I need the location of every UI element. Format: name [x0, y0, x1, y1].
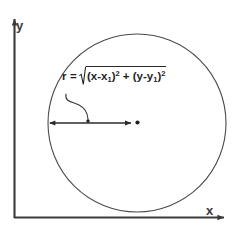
radical-group: (x-x1)2 + (y-y1)2	[79, 66, 166, 85]
radical-sign-icon	[79, 66, 86, 85]
leader-line	[66, 94, 88, 119]
x-axis-label: x	[206, 204, 213, 217]
y-axis-label: y	[16, 19, 23, 32]
center-point-dot	[135, 120, 139, 124]
radicand-term-1-open: (x-x	[87, 70, 107, 82]
diagram-canvas: y x r = (x-x1)2 + (y-y1)2	[0, 0, 236, 238]
distance-formula: r = (x-x1)2 + (y-y1)2	[62, 66, 166, 85]
radicand: (x-x1)2 + (y-y1)2	[86, 66, 166, 85]
leader-endpoint-dot	[86, 119, 89, 122]
formula-lhs: r =	[62, 66, 77, 83]
circle-radius-diagram	[0, 0, 236, 238]
radicand-term-2-exponent: 2	[161, 69, 165, 78]
radicand-operator-plus: + (y-y	[120, 70, 154, 82]
